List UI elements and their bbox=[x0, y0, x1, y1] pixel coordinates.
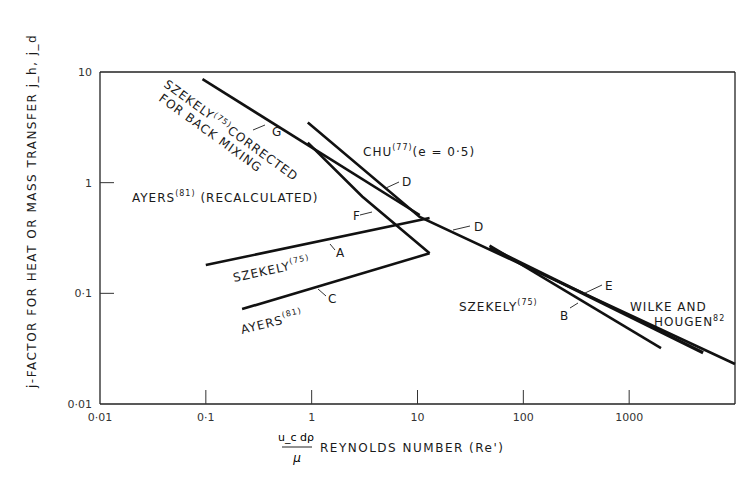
callout-leader bbox=[330, 244, 335, 250]
x-label-denominator: μ bbox=[292, 451, 301, 465]
y-tick-label: 1 bbox=[85, 177, 92, 190]
callout-letter-c: C bbox=[328, 292, 337, 306]
chart: 0·010·111010010000·010·1110 SZEKELY(75)C… bbox=[0, 0, 745, 494]
x-tick-label: 0·01 bbox=[88, 411, 113, 424]
y-tick-label: 10 bbox=[78, 66, 92, 79]
annotation-szekely-b: SZEKELY(75) bbox=[459, 298, 538, 314]
callout-leader bbox=[453, 226, 470, 230]
annotation-hougen: HOUGEN82 bbox=[654, 314, 725, 329]
callout-leader bbox=[386, 182, 399, 188]
x-tick-label: 1 bbox=[308, 411, 315, 424]
x-tick-label: 0·1 bbox=[197, 411, 215, 424]
x-tick-label: 10 bbox=[411, 411, 425, 424]
callout-letter-b: B bbox=[560, 309, 569, 323]
callout-leader bbox=[253, 125, 265, 130]
y-axis-label: j-FACTOR FOR HEAT OR MASS TRANSFER j_h, … bbox=[25, 34, 39, 389]
annotation-back-mixing: FOR BACK MIXING bbox=[156, 91, 264, 175]
series-line-f bbox=[308, 143, 430, 254]
x-axis-label-group: u_c dρ μ REYNOLDS NUMBER (Re') bbox=[278, 431, 504, 465]
callout-leader bbox=[360, 212, 372, 215]
y-tick-label: 0·01 bbox=[68, 398, 93, 411]
callout-leader bbox=[585, 285, 602, 293]
callout-letter-e: E bbox=[605, 279, 614, 293]
x-tick-label: 100 bbox=[513, 411, 534, 424]
callout-letter-a: A bbox=[336, 246, 345, 260]
annotation-ayers-c: AYERS(81) bbox=[239, 306, 305, 337]
x-label-numerator: u_c dρ bbox=[278, 431, 314, 444]
callout-letter-f: F bbox=[353, 209, 361, 223]
callout-letter-d: D bbox=[474, 220, 484, 234]
annotation-chu: CHU(77)(e = 0·5) bbox=[363, 143, 475, 159]
callout-letter-d: D bbox=[402, 175, 412, 189]
annotation-ayers-recalculated: AYERS(81) (RECALCULATED) bbox=[132, 189, 319, 205]
annotation-wilke-and: WILKE AND bbox=[630, 300, 707, 314]
callout-letter-g: G bbox=[272, 125, 282, 139]
callout-leader bbox=[570, 303, 578, 308]
callout-leader bbox=[318, 289, 326, 296]
series-line-a bbox=[206, 218, 430, 265]
y-tick-label: 0·1 bbox=[75, 287, 93, 300]
x-tick-label: 1000 bbox=[615, 411, 643, 424]
x-axis-label: REYNOLDS NUMBER (Re') bbox=[320, 441, 504, 455]
